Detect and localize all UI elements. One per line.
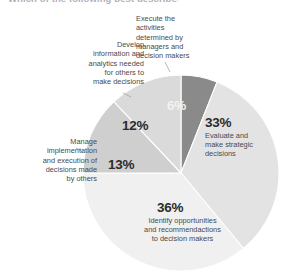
slice-value-label-execute: 6% <box>167 98 186 113</box>
slice-description-identify: Identify opportunities and recommendacti… <box>125 216 240 244</box>
slice-callout-develop: Develop information and analytics needed… <box>52 40 144 86</box>
pie-chart-figure: Which of the following best describes 6%… <box>0 0 291 278</box>
slice-value-label-develop: 12% <box>122 118 148 133</box>
slice-value-label-manage: 13% <box>108 157 134 172</box>
slice-callout-manage: Manage implementation and execution of d… <box>8 137 97 183</box>
slice-value-label-identify: 36% <box>157 200 183 215</box>
leader-line-execute <box>165 62 170 72</box>
slice-description-evaluate: Evaluate and make strategic decisions <box>205 131 277 159</box>
slice-value-label-evaluate: 33% <box>205 115 231 130</box>
slice-callout-execute: Execute the activities determined by man… <box>136 14 220 60</box>
